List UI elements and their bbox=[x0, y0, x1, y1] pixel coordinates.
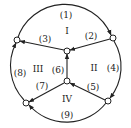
region-label-ii: II bbox=[90, 64, 97, 73]
edge-label-5: (5) bbox=[87, 83, 100, 92]
edge-label-8: (8) bbox=[14, 69, 27, 78]
node-a bbox=[14, 37, 20, 43]
edge-label-6: (6) bbox=[52, 66, 65, 75]
edge-label-4: (4) bbox=[107, 64, 120, 73]
edge-label-7: (7) bbox=[36, 82, 49, 91]
node-f bbox=[105, 98, 111, 104]
edge-label-1: (1) bbox=[60, 11, 73, 20]
edge-label-9: (9) bbox=[61, 111, 74, 120]
node-d bbox=[64, 78, 70, 84]
region-label-iv: IV bbox=[62, 95, 72, 104]
node-b bbox=[110, 35, 116, 41]
region-label-iii: III bbox=[33, 65, 44, 74]
node-e bbox=[23, 100, 29, 106]
node-c bbox=[64, 48, 70, 54]
edge-2 bbox=[70, 39, 110, 50]
region-label-i: I bbox=[65, 27, 69, 36]
edge-label-2: (2) bbox=[85, 32, 98, 41]
edge-label-3: (3) bbox=[39, 35, 52, 44]
